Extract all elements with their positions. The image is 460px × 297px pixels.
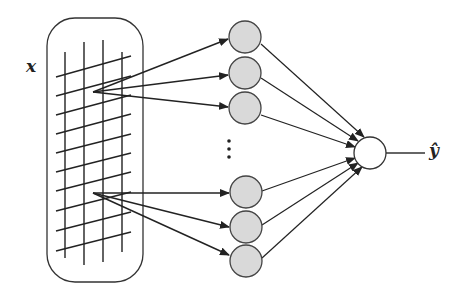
hidden-node: [229, 92, 261, 124]
hidden-node: [230, 245, 262, 277]
hidden-node: [229, 21, 261, 53]
ellipsis-dots: [227, 139, 231, 159]
input-to-hidden-edges: [93, 39, 229, 255]
input-grid-slanted: [56, 56, 131, 251]
hidden-node: [230, 211, 262, 243]
hidden-to-output-edges: [261, 44, 364, 258]
input-grid-vertical: [65, 40, 122, 265]
input-label: x: [26, 56, 36, 76]
hidden-node: [230, 176, 262, 208]
neural-network-diagram: x ŷ: [0, 0, 460, 297]
hidden-nodes: [229, 21, 262, 277]
input-image-capsule: [47, 18, 143, 282]
network-graphic: [0, 0, 460, 297]
hidden-node: [229, 57, 261, 89]
output-node: [354, 137, 386, 169]
output-label: ŷ: [429, 140, 439, 160]
